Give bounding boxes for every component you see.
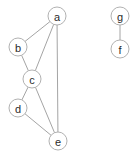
graph-node-label-a: a bbox=[54, 11, 61, 23]
graph-edge-a-b bbox=[25, 22, 50, 42]
graph-edge-b-c bbox=[22, 55, 29, 71]
graph-node-d[interactable]: d bbox=[9, 99, 27, 117]
graph-node-label-e: e bbox=[55, 136, 61, 148]
graph-node-b[interactable]: b bbox=[9, 38, 27, 56]
graph-edge-d-e bbox=[25, 114, 51, 136]
graph-node-g[interactable]: g bbox=[111, 7, 129, 25]
graph-edge-c-e bbox=[35, 87, 54, 132]
graph-node-f[interactable]: f bbox=[111, 40, 129, 58]
graph-edge-c-d bbox=[22, 87, 28, 100]
graph-node-c[interactable]: c bbox=[23, 70, 41, 88]
graph-node-label-c: c bbox=[29, 74, 35, 86]
graph-edge-a-e bbox=[57, 25, 58, 132]
graph-diagram: abcdegf bbox=[0, 0, 140, 156]
graph-node-label-b: b bbox=[15, 42, 21, 54]
graph-node-a[interactable]: a bbox=[48, 7, 66, 25]
nodes-layer: abcdegf bbox=[9, 7, 129, 150]
graph-node-e[interactable]: e bbox=[49, 132, 67, 150]
graph-node-label-g: g bbox=[117, 11, 123, 23]
graph-node-label-d: d bbox=[15, 103, 21, 115]
